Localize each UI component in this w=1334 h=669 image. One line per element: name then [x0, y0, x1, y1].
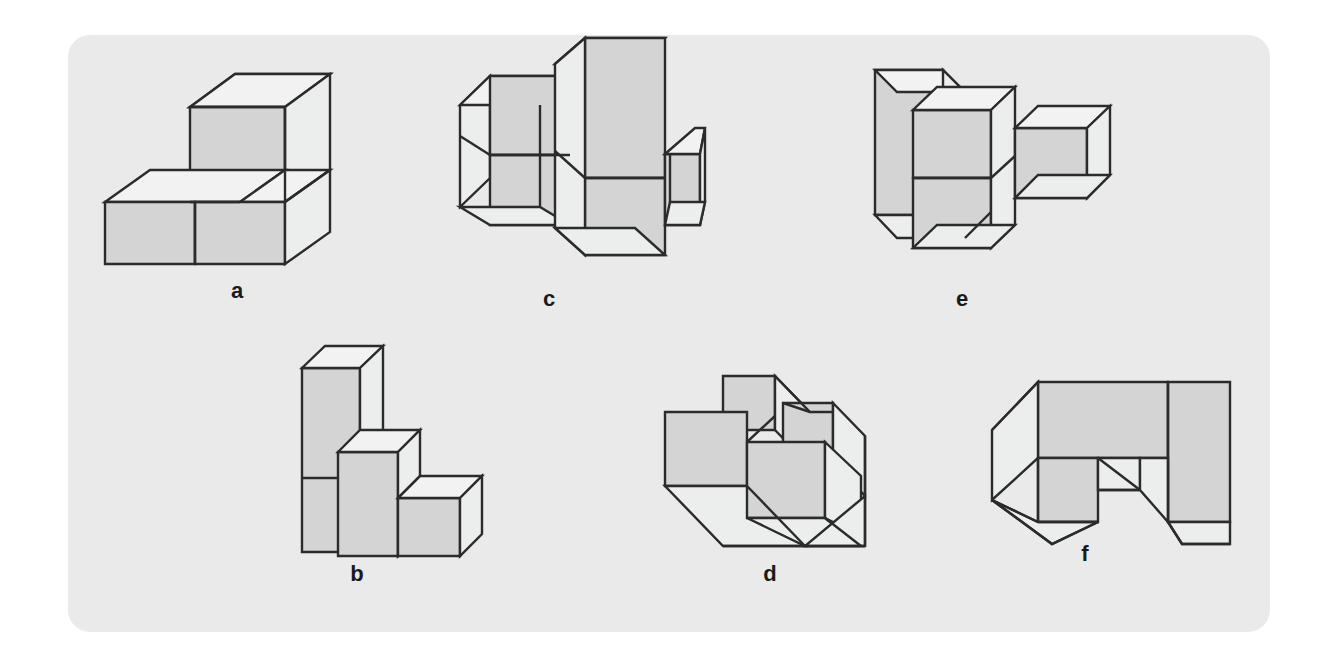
figure-b-label: b — [337, 563, 377, 585]
fig-f-face-rear-right-front — [1168, 382, 1230, 522]
figure-d: d — [665, 368, 915, 568]
fig-d-face-interior — [747, 442, 825, 518]
figure-b-svg — [280, 330, 530, 560]
fig-d-face-front-left — [665, 412, 747, 486]
fig-f-face-left-side — [992, 382, 1038, 500]
figure-f: f — [980, 372, 1230, 552]
fig-c-face-right-top — [665, 128, 705, 154]
figure-a-svg — [95, 82, 340, 272]
fig-f-face-right-leg-bottom — [1168, 522, 1230, 544]
figure-f-svg — [980, 372, 1230, 552]
figure-a-label: a — [217, 280, 257, 302]
fig-f-face-left-leg-front — [1038, 458, 1098, 522]
figure-f-label: f — [1065, 543, 1105, 565]
figure-d-label: d — [750, 563, 790, 585]
fig-f-face-rear-front — [1038, 382, 1168, 458]
fig-a-face-front-low-left — [105, 202, 195, 264]
page-root: a — [0, 0, 1334, 669]
figure-c-label: c — [529, 288, 569, 310]
fig-c-face-right-bottom — [665, 202, 705, 225]
figure-c-svg — [455, 50, 705, 280]
fig-a-face-front-low-right — [195, 202, 285, 264]
figure-e-svg — [865, 50, 1115, 280]
figure-e-label: e — [942, 288, 982, 310]
figure-a: a — [95, 82, 340, 272]
figure-c: c — [455, 50, 705, 280]
fig-b-face-right-front — [398, 498, 460, 556]
fig-e-face-front-col-upper — [913, 110, 991, 178]
fig-f-face-notch-right — [1140, 458, 1168, 522]
fig-c-face-center-side — [555, 38, 585, 255]
fig-f-edge-left-bottom — [992, 500, 1038, 522]
fig-c-face-center-front-upper — [585, 38, 665, 178]
figure-d-svg — [665, 368, 915, 568]
fig-b-face-mid-front — [338, 452, 398, 556]
figure-b: b — [280, 330, 530, 560]
figure-e: e — [865, 50, 1115, 280]
